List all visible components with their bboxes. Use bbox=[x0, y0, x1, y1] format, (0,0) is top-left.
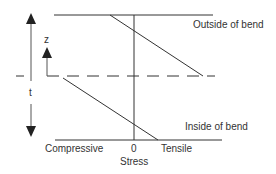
thickness-arrow-down-icon bbox=[26, 104, 36, 137]
upper-stress-line bbox=[110, 15, 203, 76]
z-label: z bbox=[44, 34, 49, 45]
thickness-arrow-up-icon bbox=[26, 13, 36, 81]
outside-of-bend-label: Outside of bend bbox=[193, 19, 264, 30]
zero-label: 0 bbox=[131, 143, 137, 154]
bending-stress-diagram: Outside of bend Inside of bend z t Compr… bbox=[0, 0, 276, 174]
z-axis-arrow-icon bbox=[42, 47, 52, 76]
stress-axis-label: Stress bbox=[120, 156, 148, 167]
lower-stress-line bbox=[63, 78, 158, 140]
compressive-label: Compressive bbox=[45, 143, 104, 154]
inside-of-bend-label: Inside of bend bbox=[185, 121, 248, 132]
tensile-label: Tensile bbox=[161, 143, 193, 154]
t-label: t bbox=[29, 87, 32, 98]
